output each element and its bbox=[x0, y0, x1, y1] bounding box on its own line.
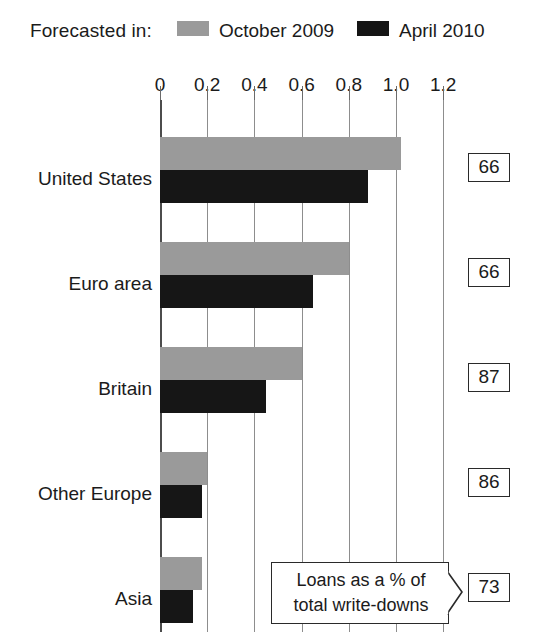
legend-title: Forecasted in: bbox=[30, 20, 152, 42]
x-axis-tick-labels: 00.20.40.60.81.01.2 bbox=[0, 74, 533, 100]
plot-area: 00.20.40.60.81.01.2 United States66Euro … bbox=[0, 74, 533, 632]
bar-euro-area-october-2009 bbox=[160, 242, 349, 275]
value-box-britain: 87 bbox=[468, 363, 510, 392]
chart-legend: Forecasted in: October 2009 April 2010 bbox=[0, 14, 533, 50]
bar-rows: United States66Euro area66Britain87Other… bbox=[0, 100, 533, 632]
category-label-britain: Britain bbox=[0, 378, 152, 400]
bar-euro-area-april-2010 bbox=[160, 275, 313, 308]
x-tick-mark-1.2 bbox=[443, 86, 444, 100]
value-box-united-states: 66 bbox=[468, 153, 510, 182]
bar-row: Euro area66 bbox=[0, 240, 533, 345]
x-tick-mark-1.0 bbox=[396, 86, 397, 100]
legend-label-october-2009: October 2009 bbox=[219, 20, 334, 42]
category-label-euro-area: Euro area bbox=[0, 273, 152, 295]
bar-other-europe-october-2009 bbox=[160, 452, 207, 485]
callout-line-2: total write-downs bbox=[281, 593, 441, 618]
bar-row: Other Europe86 bbox=[0, 450, 533, 555]
bar-other-europe-april-2010 bbox=[160, 485, 202, 518]
x-tick-mark-0.4 bbox=[254, 86, 255, 100]
bar-row: Britain87 bbox=[0, 345, 533, 450]
category-label-asia: Asia bbox=[0, 588, 152, 610]
legend-label-april-2010: April 2010 bbox=[399, 20, 485, 42]
bar-united-states-april-2010 bbox=[160, 170, 368, 203]
value-box-asia: 73 bbox=[468, 573, 510, 602]
bar-united-states-october-2009 bbox=[160, 137, 401, 170]
x-tick-mark-0 bbox=[160, 86, 161, 100]
bar-row: United States66 bbox=[0, 135, 533, 240]
x-tick-mark-0.6 bbox=[302, 86, 303, 100]
callout-text: Loans as a % of total write-downs bbox=[281, 568, 441, 618]
x-tick-mark-0.8 bbox=[349, 86, 350, 100]
chart-page: Forecasted in: October 2009 April 2010 0… bbox=[0, 0, 533, 632]
callout-pointer-icon bbox=[447, 571, 463, 615]
callout-annotation: Loans as a % of total write-downs bbox=[271, 562, 456, 624]
bar-asia-april-2010 bbox=[160, 590, 193, 623]
value-box-euro-area: 66 bbox=[468, 258, 510, 287]
value-box-other-europe: 86 bbox=[468, 468, 510, 497]
category-label-other-europe: Other Europe bbox=[0, 483, 152, 505]
bar-britain-april-2010 bbox=[160, 380, 266, 413]
bar-asia-october-2009 bbox=[160, 557, 202, 590]
legend-swatch-april-2010-icon bbox=[357, 21, 389, 36]
bar-britain-october-2009 bbox=[160, 347, 302, 380]
legend-swatch-october-2009-icon bbox=[177, 21, 209, 36]
x-tick-mark-0.2 bbox=[207, 86, 208, 100]
callout-line-1: Loans as a % of bbox=[281, 568, 441, 593]
category-label-united-states: United States bbox=[0, 168, 152, 190]
